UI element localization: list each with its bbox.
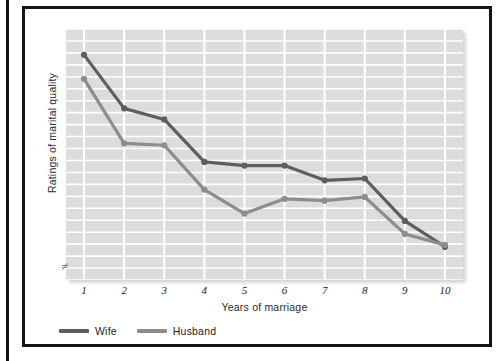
- data-point: [241, 210, 247, 216]
- data-point: [81, 52, 87, 58]
- x-axis-tick-labels: 12345678910: [66, 284, 463, 300]
- data-point: [402, 218, 408, 224]
- x-tick-label: 10: [430, 284, 460, 296]
- y-axis-title: Ratings of marital quality: [46, 48, 58, 218]
- plot-area: [66, 29, 463, 280]
- x-tick-label: 6: [270, 284, 300, 296]
- figure-frame: Ratings of marital quality ≠ 12345678910…: [22, 6, 492, 347]
- figure-root: Ratings of marital quality ≠ 12345678910…: [0, 0, 504, 361]
- data-point: [322, 198, 328, 204]
- data-point: [161, 116, 167, 122]
- data-point: [201, 159, 207, 165]
- data-point: [281, 196, 287, 202]
- x-tick-label: 4: [189, 284, 219, 296]
- x-tick-label: 5: [229, 284, 259, 296]
- legend-label: Husband: [173, 325, 216, 337]
- data-point: [322, 177, 328, 183]
- page-edge-strip: [0, 0, 9, 361]
- x-tick-label: 2: [109, 284, 139, 296]
- data-point: [442, 242, 448, 248]
- legend-item-husband[interactable]: Husband: [137, 325, 216, 337]
- data-point: [241, 162, 247, 168]
- y-axis-break-icon: ≠: [61, 259, 75, 275]
- legend-label: Wife: [95, 325, 117, 337]
- x-tick-label: 7: [310, 284, 340, 296]
- x-axis-title: Years of marriage: [66, 301, 463, 313]
- data-point: [362, 194, 368, 200]
- chart-legend: WifeHusband: [59, 325, 216, 337]
- plot-svg: [66, 29, 463, 280]
- series-line-wife: [84, 55, 445, 247]
- x-tick-label: 9: [390, 284, 420, 296]
- x-tick-label: 1: [69, 284, 99, 296]
- x-tick-label: 8: [350, 284, 380, 296]
- data-point: [81, 76, 87, 82]
- legend-swatch-icon: [137, 329, 167, 333]
- vertical-gridlines: [84, 29, 445, 280]
- data-point: [201, 186, 207, 192]
- data-point: [161, 142, 167, 148]
- x-tick-label: 3: [149, 284, 179, 296]
- data-point: [362, 175, 368, 181]
- data-point: [402, 231, 408, 237]
- legend-item-wife[interactable]: Wife: [59, 325, 117, 337]
- legend-swatch-icon: [59, 329, 89, 333]
- data-point: [121, 105, 127, 111]
- data-point: [121, 140, 127, 146]
- horizontal-gridlines: [66, 29, 463, 280]
- data-point: [281, 162, 287, 168]
- line-chart: Ratings of marital quality ≠ 12345678910…: [25, 9, 489, 344]
